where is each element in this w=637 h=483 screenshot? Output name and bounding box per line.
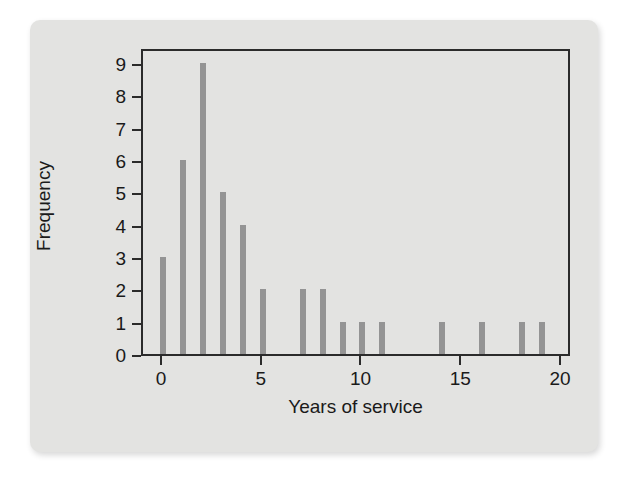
y-axis-tick [132,129,141,131]
y-axis-tick-label: 4 [100,217,126,236]
x-axis-title: Years of service [141,396,570,418]
y-axis-tick [132,355,141,357]
histogram-bar [539,322,545,354]
y-axis-tick [132,193,141,195]
y-axis-tick [132,290,141,292]
histogram-bar [180,160,186,354]
y-axis-tick [132,226,141,228]
histogram-bar [519,322,525,354]
histogram-bar [340,322,346,354]
x-axis-tick-label: 15 [440,369,480,388]
x-axis-tick-label: 20 [540,369,580,388]
x-axis-tick-label: 5 [241,369,281,388]
histogram-bar [160,257,166,354]
y-axis-tick-label: 8 [100,87,126,106]
histogram-bar [200,63,206,354]
y-axis-tick-label: 9 [100,55,126,74]
histogram-bar [439,322,445,354]
x-axis-tick [559,356,561,365]
plot-area [141,49,570,356]
y-axis-title: Frequency [33,126,55,286]
figure-page: Frequency 0123456789 05101520 Years of s… [0,0,637,483]
y-axis-tick-label: 5 [100,184,126,203]
y-axis-labels: 0123456789 [94,0,126,483]
y-axis-tick-label: 7 [100,120,126,139]
y-axis-tick-label: 1 [100,314,126,333]
y-axis-tick-label: 0 [100,346,126,365]
x-axis-tick-label: 0 [141,369,181,388]
y-axis-tick [132,161,141,163]
histogram-bar [320,289,326,354]
y-axis-tick [132,96,141,98]
histogram-bar [479,322,485,354]
y-axis-tick [132,258,141,260]
x-axis-tick [359,356,361,365]
y-axis-tick [132,323,141,325]
y-axis-tick-label: 6 [100,152,126,171]
histogram-bar [240,225,246,354]
histogram-figure: Frequency 0123456789 05101520 Years of s… [0,0,637,483]
y-axis-tick [132,64,141,66]
x-axis-tick [260,356,262,365]
x-axis-tick-label: 10 [340,369,380,388]
histogram-bar [379,322,385,354]
histogram-bar [220,192,226,354]
histogram-bar [300,289,306,354]
histogram-bar [359,322,365,354]
x-axis-tick [160,356,162,365]
histogram-bar [260,289,266,354]
x-axis-tick [459,356,461,365]
y-axis-tick-label: 2 [100,281,126,300]
y-axis-tick-label: 3 [100,249,126,268]
